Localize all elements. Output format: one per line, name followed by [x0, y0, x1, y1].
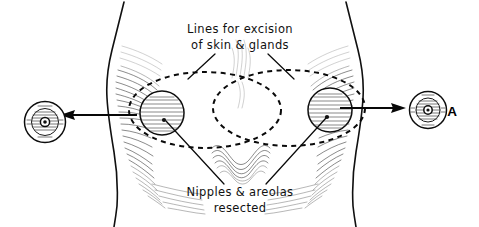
- top-caption-line1: Lines for excision: [187, 22, 293, 36]
- leader-excision-right: [268, 54, 294, 79]
- bottom-caption-group: Nipples & areolas resected: [166, 118, 326, 215]
- bottom-caption-line2: resected: [214, 201, 267, 215]
- ribcage-midline-waves: [212, 145, 270, 177]
- arrow-right-head: [391, 103, 406, 113]
- specimen-left-nipple-dot: [43, 120, 47, 124]
- leader-excision-left: [188, 54, 215, 79]
- specimen-right-nipple-dot: [426, 108, 429, 111]
- ribcage-midline-waves-soft: [217, 166, 267, 184]
- bottom-caption-line1: Nipples & areolas: [187, 185, 294, 199]
- nipple-left: [162, 118, 166, 122]
- illustration-canvas: Lines for excision of skin & glands Nipp…: [0, 0, 479, 227]
- areola-left-group: [140, 91, 184, 135]
- top-caption-line2: of skin & glands: [191, 38, 289, 52]
- areola-right: [308, 88, 352, 132]
- inset-left-group: [25, 102, 138, 143]
- areola-left: [140, 91, 184, 135]
- inset-right-group: A: [340, 92, 457, 129]
- leader-nipple-left: [166, 121, 224, 184]
- panel-label-a: A: [447, 104, 457, 119]
- surgical-illustration-figure: Lines for excision of skin & glands Nipp…: [0, 0, 479, 227]
- areola-right-group: [308, 88, 352, 132]
- leader-nipple-right: [266, 118, 326, 184]
